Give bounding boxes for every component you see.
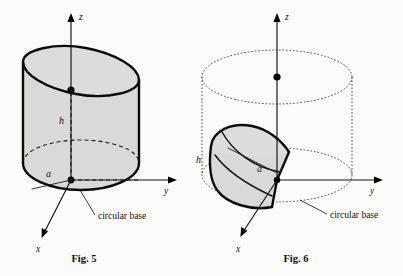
- figure-canvas: z y x a h circular base Fig. 5: [0, 0, 403, 276]
- fig5-apex-point: [67, 86, 74, 93]
- fig6-radius-label: a: [257, 163, 262, 174]
- fig5-y-axis-label: y: [163, 186, 169, 196]
- figure-6-group: z y x a h circular base Fig. 6: [196, 12, 383, 264]
- fig5-z-axis-arrowhead: [67, 13, 74, 22]
- fig6-caption: Fig. 6: [283, 253, 308, 264]
- fig6-y-axis-label: y: [369, 186, 375, 196]
- fig5-x-axis-arrowhead: [42, 228, 49, 238]
- fig6-height-label: h: [196, 154, 201, 165]
- fig6-x-axis-arrowhead: [240, 227, 247, 237]
- fig6-circular-base-label: circular base: [330, 210, 378, 220]
- fig5-circular-base-leader: [80, 190, 95, 215]
- fig5-radius-label: a: [46, 168, 51, 179]
- fig6-z-axis-label: z: [284, 12, 289, 22]
- fig6-y-axis-arrowhead: [374, 176, 383, 183]
- fig5-z-axis-label: z: [78, 12, 83, 22]
- fig5-height-label: h: [59, 115, 64, 126]
- fig6-x-axis-label: x: [235, 244, 241, 254]
- fig5-circular-base-label: circular base: [98, 211, 146, 221]
- fig6-circular-base-leader: [300, 200, 327, 214]
- figure-page: z y x a h circular base Fig. 5: [0, 0, 403, 276]
- fig6-origin-point: [274, 177, 280, 183]
- fig6-z-axis-arrowhead: [273, 13, 280, 22]
- fig6-top-center-point: [273, 73, 280, 80]
- fig5-caption: Fig. 5: [71, 253, 96, 264]
- fig5-y-axis-arrowhead: [168, 176, 177, 183]
- figure-5-group: z y x a h circular base Fig. 5: [23, 12, 177, 264]
- fig5-x-axis-label: x: [35, 244, 41, 254]
